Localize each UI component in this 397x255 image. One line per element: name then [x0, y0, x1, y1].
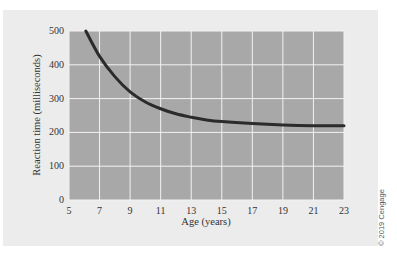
- x-tick-label: 5: [67, 205, 72, 216]
- x-tick-label: 7: [97, 205, 102, 216]
- x-tick-label: 17: [247, 205, 257, 216]
- y-axis-label: Reaction time (milliseconds): [31, 54, 43, 176]
- y-tick-label: 200: [49, 126, 64, 137]
- x-axis-label: Age (years): [181, 216, 231, 228]
- y-tick-label: 400: [49, 59, 64, 70]
- y-tick-label: 0: [59, 194, 64, 205]
- reaction-time-chart: 57911131517192123 0100200300400500 Age (…: [0, 0, 397, 255]
- x-tick-label: 21: [308, 205, 318, 216]
- plot-area: [69, 31, 344, 200]
- x-tick-label: 23: [339, 205, 349, 216]
- y-tick-label: 100: [49, 160, 64, 171]
- y-tick-label: 300: [49, 93, 64, 104]
- x-axis-ticks: 57911131517192123: [67, 205, 350, 216]
- y-tick-label: 500: [49, 25, 64, 36]
- y-axis-ticks: 0100200300400500: [49, 25, 64, 205]
- copyright-credit: © 2019 Cengage: [377, 189, 386, 246]
- x-tick-label: 15: [217, 205, 227, 216]
- x-tick-label: 19: [278, 205, 288, 216]
- x-tick-label: 13: [186, 205, 196, 216]
- x-tick-label: 9: [128, 205, 133, 216]
- x-tick-label: 11: [156, 205, 166, 216]
